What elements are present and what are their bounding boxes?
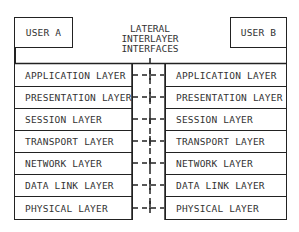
interface-connectors [0,0,299,232]
interface-dashes [133,70,164,209]
